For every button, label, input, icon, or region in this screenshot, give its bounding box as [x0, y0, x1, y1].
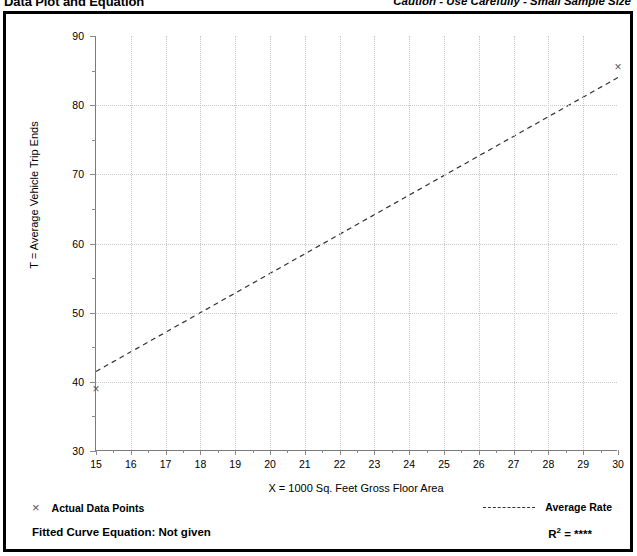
- y-axis-tick-label: 60: [72, 238, 84, 250]
- x-axis-tick: [340, 450, 341, 455]
- y-axis-tick-label: 70: [72, 168, 84, 180]
- x-axis-tick-label: 20: [264, 458, 276, 470]
- x-axis-tick: [96, 450, 97, 455]
- x-axis-tick: [166, 450, 167, 455]
- r-squared-number: = ****: [564, 528, 592, 540]
- y-axis-minor-tick: [92, 278, 96, 279]
- x-axis-tick-label: 24: [403, 458, 415, 470]
- data-point-marker: ×: [91, 383, 102, 394]
- y-axis-tick: [90, 451, 96, 452]
- legend-item-average-rate: Average Rate: [483, 501, 612, 513]
- x-axis-tick-label: 27: [508, 458, 520, 470]
- y-axis-tick-label: 30: [72, 445, 84, 457]
- x-axis-tick-label: 26: [473, 458, 485, 470]
- x-axis-tick-label: 28: [543, 458, 555, 470]
- y-axis-minor-tick: [92, 416, 96, 417]
- dashed-line-icon: [483, 507, 535, 508]
- x-axis-tick-label: 21: [299, 458, 311, 470]
- y-axis-tick: [90, 36, 96, 37]
- legend-label-average-rate: Average Rate: [545, 501, 612, 513]
- x-axis-minor-tick: [218, 450, 219, 453]
- x-axis-tick-label: 19: [229, 458, 241, 470]
- plot-inner: 1516171819202122232425262728293030405060…: [96, 36, 617, 450]
- x-axis-tick: [409, 450, 410, 455]
- x-axis-tick-label: 16: [125, 458, 137, 470]
- y-axis-tick: [90, 105, 96, 106]
- x-axis-tick: [270, 450, 271, 455]
- y-axis-tick-label: 40: [72, 376, 84, 388]
- y-axis-tick-label: 80: [72, 99, 84, 111]
- chart-footer: Fitted Curve Equation: Not given R2 = **…: [6, 526, 636, 550]
- x-axis-minor-tick: [113, 450, 114, 453]
- x-axis-tick-label: 30: [612, 458, 624, 470]
- gridline-horizontal: [96, 105, 617, 106]
- chart-panel: T = Average Vehicle Trip Ends 1516171819…: [3, 11, 633, 552]
- x-axis-title: X = 1000 Sq. Feet Gross Floor Area: [95, 482, 617, 494]
- x-axis-tick: [444, 450, 445, 455]
- x-axis-tick: [305, 450, 306, 455]
- x-axis-tick: [479, 450, 480, 455]
- fitted-curve-equation: Fitted Curve Equation: Not given: [32, 526, 211, 538]
- x-axis-tick-label: 15: [90, 458, 102, 470]
- caution-note: Caution - Use Carefully - Small Sample S…: [393, 0, 631, 7]
- x-axis-minor-tick: [392, 450, 393, 453]
- gridline-horizontal: [96, 244, 617, 245]
- x-axis-minor-tick: [357, 450, 358, 453]
- x-axis-tick: [200, 450, 201, 455]
- r-squared-label: R: [548, 528, 556, 540]
- y-axis-minor-tick: [92, 71, 96, 72]
- x-axis-tick: [235, 450, 236, 455]
- y-axis-title: T = Average Vehicle Trip Ends: [28, 95, 40, 295]
- x-axis-minor-tick: [183, 450, 184, 453]
- gridline-horizontal: [96, 313, 617, 314]
- data-point-marker: ×: [613, 62, 624, 73]
- y-axis-tick: [90, 174, 96, 175]
- y-axis-tick: [90, 244, 96, 245]
- x-axis-tick: [548, 450, 549, 455]
- x-axis-minor-tick: [461, 450, 462, 453]
- plot-axes-frame: 1516171819202122232425262728293030405060…: [95, 36, 617, 451]
- plot-region: T = Average Vehicle Trip Ends 1516171819…: [6, 14, 636, 494]
- x-axis-minor-tick: [531, 450, 532, 453]
- gridline-horizontal: [96, 382, 617, 383]
- cross-marker-icon: ×: [32, 501, 40, 515]
- x-axis-tick-label: 25: [438, 458, 450, 470]
- y-axis-minor-tick: [92, 209, 96, 210]
- x-axis-minor-tick: [148, 450, 149, 453]
- page-title: Data Plot and Equation: [4, 0, 144, 9]
- r-squared-value: R2 = ****: [548, 526, 592, 540]
- r-squared-exponent: 2: [557, 526, 561, 535]
- gridline-horizontal: [96, 174, 617, 175]
- x-axis-tick: [514, 450, 515, 455]
- x-axis-tick: [583, 450, 584, 455]
- y-axis-tick-label: 90: [72, 30, 84, 42]
- x-axis-tick-label: 17: [160, 458, 172, 470]
- x-axis-tick-label: 23: [369, 458, 381, 470]
- x-axis-minor-tick: [566, 450, 567, 453]
- x-axis-tick-label: 29: [577, 458, 589, 470]
- x-axis-tick: [618, 450, 619, 455]
- x-axis-minor-tick: [253, 450, 254, 453]
- y-axis-minor-tick: [92, 140, 96, 141]
- x-axis-minor-tick: [496, 450, 497, 453]
- y-axis-tick-label: 50: [72, 307, 84, 319]
- y-axis-minor-tick: [92, 347, 96, 348]
- y-axis-tick: [90, 313, 96, 314]
- x-axis-minor-tick: [427, 450, 428, 453]
- x-axis-minor-tick: [287, 450, 288, 453]
- x-axis-minor-tick: [601, 450, 602, 453]
- x-axis-tick-label: 18: [195, 458, 207, 470]
- legend-item-actual-data-points: × Actual Data Points: [32, 501, 144, 515]
- chart-legend: × Actual Data Points Average Rate: [6, 501, 636, 525]
- x-axis-minor-tick: [322, 450, 323, 453]
- legend-label-actual-data-points: Actual Data Points: [52, 502, 145, 514]
- x-axis-tick-label: 22: [334, 458, 346, 470]
- x-axis-tick: [374, 450, 375, 455]
- x-axis-tick: [131, 450, 132, 455]
